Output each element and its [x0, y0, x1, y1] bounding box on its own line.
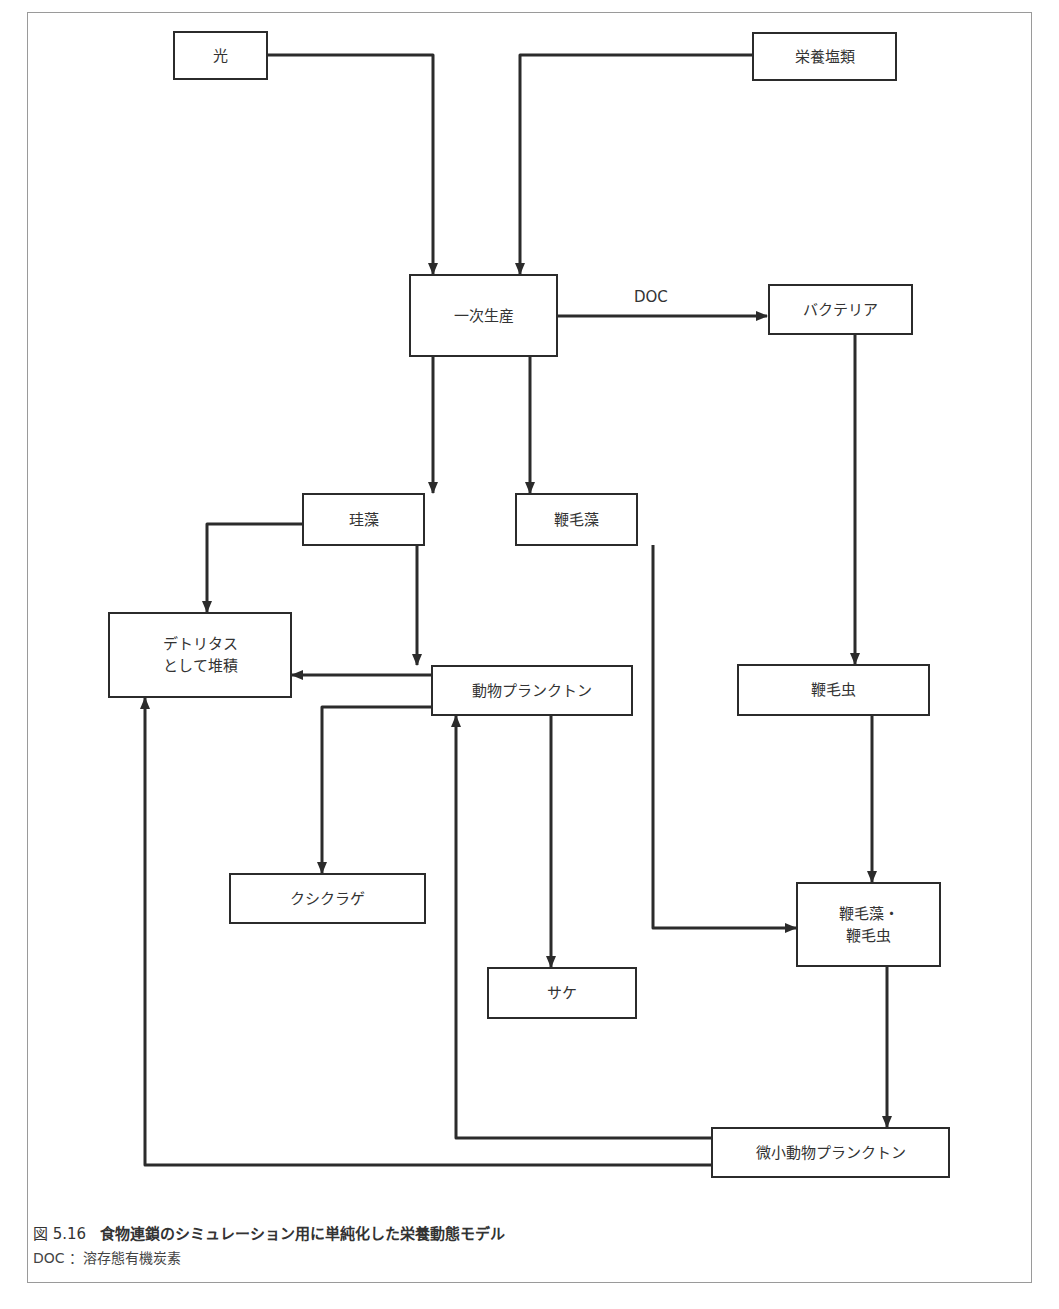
edge-microzoo-detritus [145, 698, 711, 1165]
node-primary-production: 一次生産 [409, 274, 558, 357]
edge-diatoms-detritus [207, 524, 302, 612]
caption-note: DOC ：溶存態有機炭素 [33, 1247, 505, 1267]
node-dinoflagellates: 鞭毛藻 [515, 493, 638, 546]
node-bacteria-label: バクテリア [803, 299, 878, 321]
node-nutrients: 栄養塩類 [752, 32, 897, 81]
node-zooplankton-label: 動物プランクトン [472, 680, 592, 702]
edge-zooplankton-ctenophore [322, 707, 431, 873]
node-dinoflag-label-line1: 鞭毛藻・ [839, 903, 899, 925]
node-ctenophore-label: クシクラゲ [290, 888, 365, 910]
edge-light-primary [267, 55, 433, 274]
edge-nutrients-primary [520, 55, 752, 274]
node-bacteria: バクテリア [768, 284, 913, 335]
node-detritus-label-line2: として堆積 [163, 655, 238, 677]
node-primary-production-label: 一次生産 [454, 305, 514, 327]
node-microzooplankton-label: 微小動物プランクトン [756, 1142, 906, 1164]
node-salmon: サケ [487, 967, 637, 1019]
edge-dinoflagellates-dinoflag [653, 545, 796, 928]
node-ctenophore: クシクラゲ [229, 873, 426, 924]
node-flagellates-label: 鞭毛虫 [811, 679, 856, 701]
node-salmon-label: サケ [547, 982, 577, 1004]
node-diatoms: 珪藻 [302, 493, 425, 546]
node-detritus: デトリタス として堆積 [108, 612, 292, 698]
node-zooplankton: 動物プランクトン [431, 665, 633, 716]
caption-title-row: 図 5.16食物連鎖のシミュレーション用に単純化した栄養動態モデル [33, 1222, 505, 1243]
node-flagellates: 鞭毛虫 [737, 664, 930, 716]
figure-title: 食物連鎖のシミュレーション用に単純化した栄養動態モデル [100, 1225, 505, 1243]
node-light-label: 光 [213, 45, 228, 67]
node-dinoflagellates-flagellates: 鞭毛藻・ 鞭毛虫 [796, 882, 941, 967]
edge-label-doc: DOC [634, 288, 668, 306]
figure-number: 図 5.16 [33, 1225, 86, 1243]
node-light: 光 [173, 31, 268, 80]
node-diatoms-label: 珪藻 [349, 509, 379, 531]
figure-caption: 図 5.16食物連鎖のシミュレーション用に単純化した栄養動態モデル DOC ：溶… [33, 1222, 505, 1267]
node-nutrients-label: 栄養塩類 [795, 46, 855, 68]
node-detritus-label-line1: デトリタス [163, 633, 238, 655]
node-microzooplankton: 微小動物プランクトン [711, 1127, 950, 1178]
node-dinoflag-label-line2: 鞭毛虫 [846, 925, 891, 947]
node-dinoflagellates-label: 鞭毛藻 [554, 509, 599, 531]
